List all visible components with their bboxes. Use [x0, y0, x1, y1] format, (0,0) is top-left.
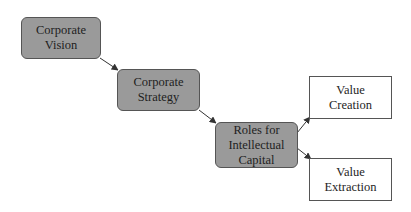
edge-vision-to-strategy [100, 58, 118, 70]
node-label: Corporate Vision [36, 23, 86, 53]
edge-roles-to-creation [297, 117, 310, 133]
node-value-extraction: Value Extraction [309, 158, 392, 201]
node-corporate-strategy: Corporate Strategy [117, 69, 200, 111]
node-label: Value Creation [329, 83, 372, 113]
node-value-creation: Value Creation [309, 76, 392, 119]
node-label: Value Extraction [324, 165, 376, 195]
edge-strategy-to-roles [199, 110, 216, 123]
node-label: Corporate Strategy [134, 75, 184, 105]
node-corporate-vision: Corporate Vision [21, 17, 101, 59]
node-roles-for-intellectual-capital: Roles for Intellectual Capital [215, 122, 298, 168]
node-label: Roles for Intellectual Capital [228, 123, 284, 168]
